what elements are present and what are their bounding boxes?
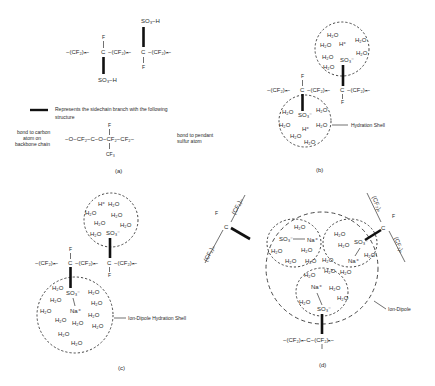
panel-b: H₂O H₂O H⁺ H₂O H₂O H₂O SO₃⁻ H₂O −(CF₂)ₙ−… bbox=[267, 22, 385, 173]
panel-c-label: (c) bbox=[118, 365, 125, 371]
panel-d: (CF₂)ₙ (CF₂)ₙ C F (CF₂)ₙ (CF₂)ₙ C F H₂O … bbox=[203, 193, 411, 368]
sulfonate-group: SO₃⁻ bbox=[279, 236, 293, 242]
water: H₂O bbox=[40, 308, 52, 314]
backbone-c-1: C bbox=[101, 49, 106, 55]
water: H₂O bbox=[271, 248, 283, 254]
legend-text: Represents the sidechain branch with the… bbox=[55, 106, 168, 112]
water: H₂O bbox=[327, 32, 339, 38]
fluorine-2: F bbox=[142, 64, 145, 70]
backbone-seg: −(CF₂)ₙ− bbox=[114, 260, 138, 266]
water: H₂O bbox=[90, 231, 102, 237]
water: H₂O bbox=[320, 42, 332, 48]
sidechain-formula: −O−CF₂−C−O−CF₂−CF₂− bbox=[65, 136, 135, 142]
backbone-seg: −(CF₂)ₙ− bbox=[267, 87, 291, 93]
water: H₂O bbox=[52, 285, 64, 291]
water: H₂O bbox=[92, 323, 104, 329]
water: H₂O bbox=[329, 285, 341, 291]
backbone-seg-2: −(CF₂)ₙ− bbox=[108, 49, 132, 55]
water: H₂O bbox=[364, 252, 376, 258]
so3h-top: SO₃−H bbox=[141, 18, 160, 24]
water: H₂O bbox=[338, 242, 350, 248]
water: H₂O bbox=[72, 320, 84, 326]
water: H₂O bbox=[340, 269, 352, 275]
water: H₂O bbox=[322, 257, 334, 263]
backbone-c-2: C bbox=[141, 49, 146, 55]
backbone-seg: −(CF₂)ₙ− bbox=[35, 260, 59, 266]
backbone-seg-3: −(CF₂)ₙ− bbox=[148, 49, 172, 55]
water: H₂O bbox=[55, 317, 67, 323]
water: H₂O bbox=[305, 258, 317, 264]
ionomer-hydration-diagram: −(CF₂)ₙ− C −(CF₂)ₙ− C −(CF₂)ₙ− F SO₃−H S… bbox=[0, 0, 435, 386]
water: H₂O bbox=[334, 231, 346, 237]
water: H₂O bbox=[285, 258, 297, 264]
water: H₂O bbox=[299, 299, 311, 305]
water: H₂O bbox=[301, 247, 313, 253]
hydronium-ion: H⁺ bbox=[339, 41, 346, 47]
water: H₂O bbox=[58, 331, 70, 337]
sodium-ion: Na⁺ bbox=[311, 284, 322, 290]
water: H₂O bbox=[316, 107, 328, 113]
backbone-seg-1: −(CF₂)ₙ− bbox=[66, 49, 90, 55]
hydration-shell-label: Hydration Shell bbox=[351, 122, 385, 128]
legend-text-2: structure bbox=[55, 114, 75, 120]
sulfonate-group: SO₃⁻ bbox=[298, 112, 312, 118]
sulfonate-group: SO₃⁻ bbox=[106, 230, 120, 236]
water: H₂O bbox=[71, 340, 83, 346]
fluorine: F bbox=[215, 210, 218, 216]
sodium-ion: Na⁺ bbox=[70, 308, 81, 314]
panel-b-label: (b) bbox=[316, 167, 323, 173]
backbone-c: C bbox=[300, 87, 305, 93]
backbone-seg: −(CF₂)ₙ− bbox=[75, 260, 99, 266]
water: H₂O bbox=[294, 224, 306, 230]
sulfonate-group: SO₃⁻ bbox=[354, 239, 368, 245]
fluorine: F bbox=[69, 246, 72, 252]
note-bond-carbon-3: backbone chain bbox=[15, 141, 50, 147]
water: H₂O bbox=[120, 222, 132, 228]
water: H₂O bbox=[85, 210, 97, 216]
water: H₂O bbox=[337, 295, 349, 301]
panel-a: −(CF₂)ₙ− C −(CF₂)ₙ− C −(CF₂)ₙ− F SO₃−H S… bbox=[15, 18, 214, 174]
fluorine: F bbox=[392, 213, 395, 219]
backbone-bottom: −(CF₂)ₙ−C−(CF₂)ₙ− bbox=[283, 337, 334, 343]
water: H₂O bbox=[88, 312, 100, 318]
fluorine-1: F bbox=[102, 34, 105, 40]
sidechain-cf3: CF₃ bbox=[106, 151, 115, 157]
sodium-ion: Na⁺ bbox=[348, 258, 359, 264]
water: H₂O bbox=[355, 37, 367, 43]
water: H₂O bbox=[88, 289, 100, 295]
backbone-seg: (CF₂)ₙ bbox=[393, 236, 405, 254]
water: H₂O bbox=[94, 220, 106, 226]
water: H₂O bbox=[279, 122, 291, 128]
panel-c: H⁺ H₂O H₂O H₂O H₂O H₂O H₂O SO₃⁻ −(CF₂)ₙ−… bbox=[35, 193, 186, 371]
water: H₂O bbox=[50, 297, 62, 303]
hydronium-ion: H⁺ bbox=[98, 201, 105, 207]
sulfonate-group: SO₃⁻ bbox=[317, 306, 331, 312]
backbone-seg: −(CF₂)ₙ− bbox=[307, 87, 331, 93]
sidechain-f: F bbox=[108, 122, 111, 128]
fluorine: F bbox=[301, 73, 304, 79]
fluorine: F bbox=[341, 99, 344, 105]
backbone-c: C bbox=[107, 260, 112, 266]
water: H₂O bbox=[91, 300, 103, 306]
note-pendant-2: sulfur atom bbox=[177, 138, 202, 144]
backbone-c: C bbox=[381, 225, 386, 231]
backbone-c: C bbox=[68, 260, 73, 266]
ion-dipole-label: Ion-Dipole bbox=[388, 306, 411, 312]
water: H₂O bbox=[356, 50, 368, 56]
panel-a-label: (a) bbox=[115, 168, 122, 174]
backbone-seg: (CF₂)ₙ bbox=[371, 195, 383, 213]
backbone-seg: −(CF₂)ₙ− bbox=[347, 87, 371, 93]
water: H₂O bbox=[316, 122, 328, 128]
so3h-bottom: SO₃−H bbox=[98, 77, 117, 83]
water: H₂O bbox=[324, 268, 336, 274]
water: H₂O bbox=[323, 64, 335, 70]
water: H₂O bbox=[304, 272, 316, 278]
water: H₂O bbox=[304, 139, 316, 145]
backbone-c: C bbox=[224, 224, 229, 230]
chain-top-left: (CF₂)ₙ (CF₂)ₙ C F bbox=[203, 195, 250, 263]
sulfonate-group: SO₃⁻ bbox=[340, 57, 354, 63]
sulfonate-group: SO₃⁻ bbox=[66, 290, 80, 296]
panel-d-label: (d) bbox=[319, 362, 326, 368]
water: H₂O bbox=[322, 54, 334, 60]
ion-dipole-shell-label: Ion-Dipole Hydration Shell bbox=[128, 315, 186, 321]
